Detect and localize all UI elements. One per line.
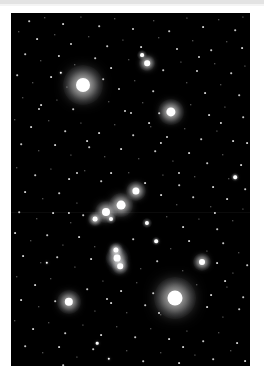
star-pi3-orionis-glow <box>193 253 211 271</box>
field-star <box>212 358 214 360</box>
star-iota-orionis <box>117 263 123 269</box>
field-star <box>20 299 22 301</box>
field-star <box>150 328 151 329</box>
star-eta-orionis <box>93 217 98 222</box>
star-29-orionis <box>145 221 149 225</box>
field-star <box>58 192 60 194</box>
star-phi1-orionis-glow <box>137 50 147 60</box>
field-star <box>206 250 207 251</box>
field-star <box>62 23 64 25</box>
field-star <box>34 284 36 286</box>
star-saiph <box>65 298 73 306</box>
field-star <box>238 252 239 253</box>
field-star <box>40 60 41 61</box>
field-star <box>54 300 56 302</box>
field-star <box>76 172 78 174</box>
field-star <box>124 110 126 112</box>
field-star <box>50 278 51 279</box>
field-star <box>116 326 117 327</box>
star-betelgeuse <box>76 78 90 92</box>
field-star <box>208 114 210 116</box>
field-star <box>16 167 17 168</box>
field-star <box>140 46 142 48</box>
field-star <box>102 78 104 80</box>
field-star <box>222 316 223 317</box>
star-mintaka-glow <box>126 181 146 201</box>
page-bottom-margin <box>0 366 264 384</box>
star-mintaka <box>132 187 139 194</box>
field-star <box>192 40 193 41</box>
field-star <box>122 39 123 40</box>
field-star <box>40 262 41 263</box>
field-star <box>96 342 99 345</box>
field-star <box>198 218 199 219</box>
field-star <box>110 172 112 174</box>
field-star <box>192 196 194 198</box>
field-star <box>74 266 75 267</box>
field-star <box>114 18 115 19</box>
field-star <box>76 202 77 203</box>
star-42-orionis <box>113 247 118 252</box>
field-star <box>82 214 84 216</box>
field-star <box>94 310 95 311</box>
field-star <box>206 306 208 308</box>
star-bellatrix <box>166 107 175 116</box>
star-meissa <box>144 60 150 66</box>
field-star <box>178 362 180 364</box>
field-star <box>242 296 244 298</box>
field-star <box>118 88 120 90</box>
field-star <box>226 286 227 287</box>
field-star <box>46 262 48 264</box>
field-star <box>30 240 31 241</box>
field-star <box>198 56 200 58</box>
field-star <box>32 328 34 330</box>
field-star <box>244 360 246 362</box>
field-star <box>22 255 24 257</box>
field-star <box>54 144 56 146</box>
field-star <box>18 31 19 32</box>
field-star <box>20 143 22 145</box>
field-star <box>218 332 219 333</box>
field-star <box>82 324 83 325</box>
star-iota-orionis-glow <box>112 258 128 274</box>
field-star <box>80 16 81 17</box>
field-star <box>166 136 168 138</box>
star-rigel <box>168 291 183 306</box>
field-star <box>214 63 215 64</box>
field-star <box>48 322 49 323</box>
star-bellatrix-glow <box>158 99 184 125</box>
field-star <box>110 302 112 304</box>
field-star <box>84 170 85 171</box>
field-star <box>182 346 184 348</box>
field-star <box>232 140 234 142</box>
star-tau-orionis-glow <box>152 237 160 245</box>
field-star <box>50 76 52 78</box>
field-star <box>108 101 109 102</box>
field-star <box>86 140 88 142</box>
field-star <box>24 345 26 347</box>
field-star <box>16 276 17 277</box>
field-star <box>130 112 132 114</box>
field-star <box>46 234 48 236</box>
field-star <box>216 262 218 264</box>
field-star <box>184 128 185 129</box>
field-star <box>148 122 150 124</box>
field-star <box>246 264 248 266</box>
field-star <box>114 124 115 125</box>
field-star <box>226 41 227 42</box>
field-star <box>74 64 75 65</box>
field-star <box>178 172 180 174</box>
field-star <box>244 65 245 66</box>
star-mu-orionis <box>233 175 237 179</box>
field-star <box>72 108 74 110</box>
field-star <box>24 191 26 193</box>
star-phi1-orionis <box>140 53 144 57</box>
field-star <box>50 168 51 169</box>
field-star <box>70 154 71 155</box>
field-star <box>224 280 226 282</box>
field-star <box>202 340 204 342</box>
field-star <box>138 158 139 159</box>
field-star <box>36 38 38 40</box>
field-star <box>70 43 72 45</box>
field-star <box>152 90 154 92</box>
